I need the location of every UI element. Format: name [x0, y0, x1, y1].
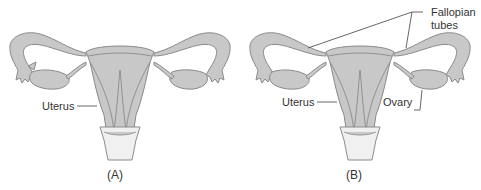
label-ovary: Ovary [383, 96, 412, 108]
label-uterus-b: Uterus [282, 96, 314, 108]
caption-a: (A) [107, 168, 123, 182]
fallopian-leader-line-right [406, 12, 412, 48]
label-fallopian-tubes-line2: tubes [431, 19, 458, 31]
label-fallopian-tubes-line1: Fallopian [431, 6, 476, 18]
caption-b: (B) [346, 168, 362, 182]
panel-a: Uterus (A) [0, 0, 240, 190]
fallopian-leader-line-left [308, 12, 423, 48]
label-uterus-a: Uterus [42, 100, 74, 112]
ovary-leader-line [414, 90, 422, 110]
uterus-diagram-a [0, 0, 240, 190]
panel-b: Uterus Ovary Fallopian tubes (B) [240, 0, 480, 190]
